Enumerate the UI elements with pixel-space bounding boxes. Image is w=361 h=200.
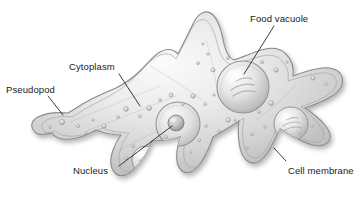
label-cell-membrane: Cell membrane xyxy=(288,166,354,176)
leader-cell-membrane xyxy=(274,148,286,161)
label-pseudopod: Pseudopod xyxy=(6,85,55,95)
nucleus xyxy=(156,102,200,146)
food-vacuole xyxy=(217,61,269,113)
secondary-vacuole xyxy=(274,107,308,141)
label-cytoplasm: Cytoplasm xyxy=(69,62,115,72)
label-food-vacuole: Food vacuole xyxy=(250,14,308,24)
label-nucleus: Nucleus xyxy=(73,166,108,176)
leader-pseudopod xyxy=(48,96,63,115)
nucleolus xyxy=(168,115,184,131)
lower-vacuole xyxy=(132,146,160,174)
amoeba-diagram-page: Food vacuole Cytoplasm Pseudopod Nucleus… xyxy=(0,0,361,200)
